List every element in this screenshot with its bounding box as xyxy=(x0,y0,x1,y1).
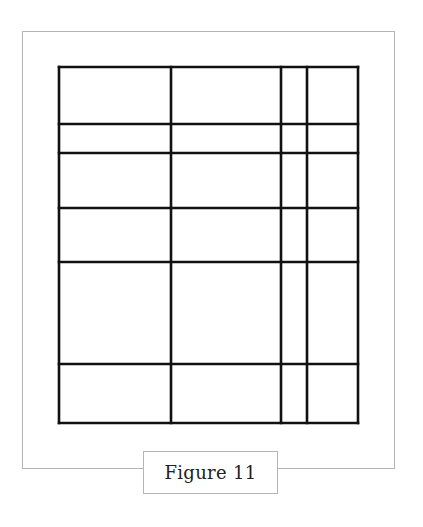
figure-caption: Figure 11 xyxy=(165,462,257,483)
rectangle-grid-diagram xyxy=(0,0,423,527)
grid-lines xyxy=(59,67,358,423)
figure-caption-box: Figure 11 xyxy=(143,451,278,494)
